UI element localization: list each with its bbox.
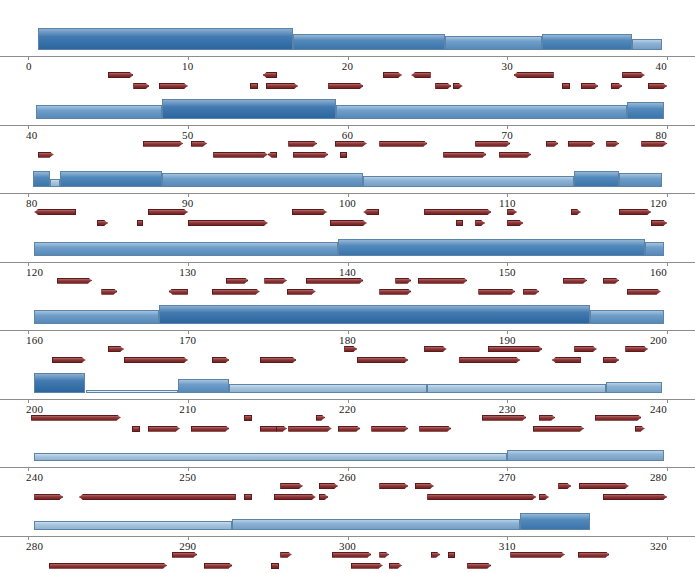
- gene-feature[interactable]: [379, 141, 427, 147]
- gene-feature[interactable]: [475, 141, 510, 147]
- gene-feature[interactable]: [108, 346, 124, 352]
- coverage-track: [0, 425, 695, 453]
- axis-tick-label: 210: [179, 403, 196, 415]
- coverage-segment: [338, 239, 645, 256]
- gene-feature[interactable]: [271, 563, 279, 569]
- coverage-track: [0, 14, 695, 42]
- gene-feature[interactable]: [467, 563, 491, 569]
- gene-feature[interactable]: [316, 415, 326, 421]
- axis-tick-label: 250: [179, 471, 196, 483]
- axis-tick-label: 120: [650, 197, 667, 209]
- gene-feature[interactable]: [335, 141, 367, 147]
- gene-feature[interactable]: [546, 141, 559, 147]
- gene-feature[interactable]: [418, 278, 468, 284]
- coverage-segment: [590, 310, 663, 324]
- gene-feature[interactable]: [344, 346, 357, 352]
- axis-tick: [667, 193, 668, 197]
- axis-tick-label: 160: [650, 266, 667, 278]
- axis-tick-label: 30: [502, 60, 513, 72]
- gene-feature[interactable]: [383, 72, 402, 78]
- gene-feature[interactable]: [488, 346, 542, 352]
- gene-feature[interactable]: [148, 209, 188, 215]
- gene-feature[interactable]: [571, 209, 581, 215]
- gene-feature[interactable]: [280, 552, 291, 558]
- coverage-track: [0, 288, 695, 316]
- gene-feature[interactable]: [568, 141, 595, 147]
- axis-tick-label: 90: [182, 197, 193, 209]
- gene-feature[interactable]: [424, 209, 491, 215]
- gene-feature[interactable]: [57, 278, 92, 284]
- gene-track: [0, 552, 695, 573]
- gene-feature[interactable]: [603, 278, 619, 284]
- gene-feature[interactable]: [172, 552, 198, 558]
- coverage-segment: [34, 521, 232, 529]
- gene-feature[interactable]: [263, 72, 277, 78]
- gene-feature[interactable]: [379, 552, 389, 558]
- gene-feature[interactable]: [363, 209, 379, 215]
- axis-tick: [667, 330, 668, 334]
- axis-tick-label: 280: [26, 540, 43, 552]
- axis-tick-label: 160: [26, 334, 43, 346]
- coverage-segment: [520, 513, 590, 530]
- gene-feature[interactable]: [622, 72, 644, 78]
- gene-feature[interactable]: [415, 483, 434, 489]
- gene-feature[interactable]: [625, 346, 647, 352]
- gene-feature[interactable]: [244, 415, 252, 421]
- gene-feature[interactable]: [424, 346, 446, 352]
- gene-feature[interactable]: [204, 563, 233, 569]
- gene-feature[interactable]: [306, 278, 364, 284]
- gene-feature[interactable]: [595, 415, 641, 421]
- map-row: 8090100110120: [0, 151, 695, 220]
- coverage-track: [0, 494, 695, 522]
- gene-feature[interactable]: [280, 483, 302, 489]
- gene-feature[interactable]: [31, 415, 120, 421]
- gene-feature[interactable]: [606, 141, 619, 147]
- gene-feature[interactable]: [379, 483, 408, 489]
- axis-tick: [667, 467, 668, 471]
- axis-tick-label: 190: [499, 334, 516, 346]
- gene-feature[interactable]: [395, 278, 411, 284]
- gene-feature[interactable]: [411, 72, 430, 78]
- axis-tick-label: 50: [182, 129, 193, 141]
- gene-feature[interactable]: [143, 141, 183, 147]
- gene-feature[interactable]: [539, 415, 555, 421]
- axis-tick-label: 100: [339, 197, 356, 209]
- coverage-segment: [50, 179, 60, 187]
- axis-tick-label: 0: [26, 60, 32, 72]
- gene-feature[interactable]: [482, 415, 527, 421]
- axis-tick-label: 40: [26, 129, 37, 141]
- gene-feature[interactable]: [510, 552, 564, 558]
- gene-feature[interactable]: [448, 552, 454, 558]
- gene-feature[interactable]: [292, 209, 327, 215]
- gene-feature[interactable]: [108, 72, 134, 78]
- gene-feature[interactable]: [431, 552, 441, 558]
- gene-feature[interactable]: [578, 552, 610, 558]
- gene-feature[interactable]: [507, 209, 517, 215]
- gene-feature[interactable]: [558, 483, 571, 489]
- gene-feature[interactable]: [226, 278, 248, 284]
- gene-feature[interactable]: [319, 483, 338, 489]
- coverage-segment: [162, 99, 336, 118]
- coverage-track: [0, 220, 695, 248]
- gene-feature[interactable]: [49, 563, 167, 569]
- map-row: 240250260270280: [0, 425, 695, 494]
- gene-feature[interactable]: [351, 563, 383, 569]
- gene-feature[interactable]: [619, 209, 651, 215]
- gene-feature[interactable]: [389, 563, 402, 569]
- coverage-segment: [507, 450, 664, 461]
- gene-feature[interactable]: [264, 278, 286, 284]
- map-row: 010203040: [0, 14, 695, 83]
- gene-feature[interactable]: [563, 278, 587, 284]
- gene-feature[interactable]: [332, 552, 372, 558]
- gene-feature[interactable]: [641, 141, 667, 147]
- gene-feature[interactable]: [34, 209, 76, 215]
- gene-feature[interactable]: [191, 141, 207, 147]
- axis-tick: [667, 399, 668, 403]
- map-row: 160170180190200: [0, 288, 695, 357]
- gene-feature[interactable]: [579, 483, 629, 489]
- gene-feature[interactable]: [288, 141, 317, 147]
- gene-feature[interactable]: [574, 346, 596, 352]
- map-row: 200210220230240: [0, 357, 695, 426]
- coverage-segment: [232, 519, 520, 530]
- gene-feature[interactable]: [514, 72, 554, 78]
